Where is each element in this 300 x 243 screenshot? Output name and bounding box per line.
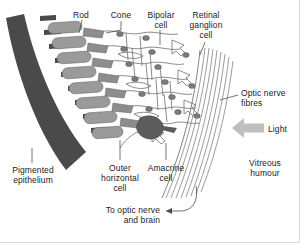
label-retinal-ganglion-cell: Retinal ganglion cell (182, 10, 230, 40)
retina-diagram-figure: Rod Cone Bipolar cell Retinal ganglion c… (0, 0, 300, 243)
label-cone: Cone (106, 10, 136, 20)
label-amacrine-cell: Amacrine cell (142, 163, 190, 183)
label-rod: Rod (68, 10, 94, 20)
label-optic-nerve-fibres: Optic nerve fibres (241, 88, 299, 108)
label-to-optic-nerve-and-brain: To optic nerve and brain (84, 205, 160, 225)
label-vitreous-humour: Vitreous humour (240, 158, 290, 178)
label-outer-horizontal-cell: Outer horizontal cell (95, 163, 145, 193)
label-light: Light (268, 124, 298, 134)
label-bipolar-cell: Bipolar cell (140, 10, 182, 30)
label-pigmented-epithelium: Pigmented epithelium (4, 165, 62, 185)
light-arrow-icon (232, 118, 264, 138)
